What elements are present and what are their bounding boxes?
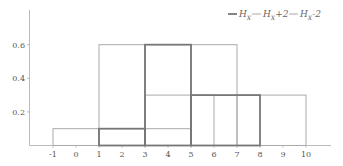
histogram-bin xyxy=(145,129,191,146)
x-tick-label: 4 xyxy=(165,150,170,159)
y-ticks: 0.20.40.6 xyxy=(12,41,30,117)
legend-label: HX+2 xyxy=(262,9,289,21)
thin-histograms xyxy=(53,45,306,146)
x-tick-label: 6 xyxy=(211,150,216,159)
histogram-bin xyxy=(53,129,99,146)
x-tick-label: 1 xyxy=(96,150,101,159)
x-tick-label: -1 xyxy=(49,150,57,159)
x-tick-label: 3 xyxy=(142,150,147,159)
histogram-bin xyxy=(145,95,214,145)
histogram-bin xyxy=(191,95,260,145)
histogram-bin xyxy=(99,129,145,146)
y-tick-label: 0.4 xyxy=(12,74,25,83)
histogram-bin xyxy=(237,95,306,145)
x-tick-label: 8 xyxy=(257,150,262,159)
x-tick-label: 10 xyxy=(301,150,311,159)
x-tick-label: 2 xyxy=(119,150,124,159)
x-tick-label: 5 xyxy=(188,150,193,159)
y-tick-label: 0.2 xyxy=(12,108,25,117)
axes: 0.20.40.6 -1012345678910 xyxy=(12,10,331,159)
x-ticks: -1012345678910 xyxy=(49,146,311,160)
x-tick-label: 7 xyxy=(234,150,239,159)
x-tick-label: 9 xyxy=(280,150,285,159)
legend: HXHX+2HX-2 xyxy=(228,9,321,21)
y-tick-label: 0.6 xyxy=(12,41,25,50)
x-tick-label: 0 xyxy=(73,150,78,159)
histogram-chart: 0.20.40.6 -1012345678910 HXHX+2HX-2 xyxy=(0,0,343,166)
histogram-bin xyxy=(99,45,145,146)
legend-label: HX xyxy=(238,9,252,21)
legend-label: HX-2 xyxy=(299,9,321,21)
